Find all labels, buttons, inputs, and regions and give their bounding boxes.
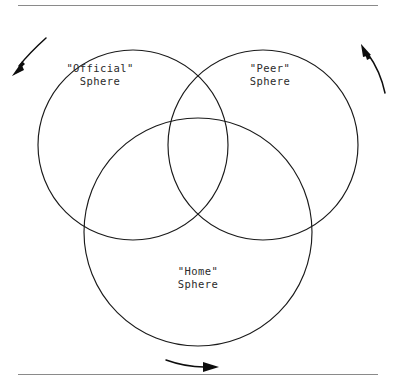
peer-sphere-label-line1: "Peer" <box>222 62 318 75</box>
home-sphere-circle <box>84 118 312 346</box>
home-sphere-label: "Home" Sphere <box>150 265 246 291</box>
peer-sphere-label-line2: Sphere <box>222 75 318 88</box>
top-right-arrow-icon <box>361 44 385 93</box>
official-sphere-label-line1: "Official" <box>52 62 148 75</box>
official-sphere-label: "Official" Sphere <box>52 62 148 88</box>
top-left-arrow-icon <box>12 38 46 76</box>
official-sphere-label-line2: Sphere <box>52 75 148 88</box>
peer-sphere-label: "Peer" Sphere <box>222 62 318 88</box>
bottom-arrow-icon <box>166 360 219 372</box>
venn-diagram-figure: "Official" Sphere "Peer" Sphere "Home" S… <box>0 0 396 382</box>
home-sphere-label-line2: Sphere <box>150 278 246 291</box>
home-sphere-label-line1: "Home" <box>150 265 246 278</box>
diagram-canvas <box>0 0 396 382</box>
